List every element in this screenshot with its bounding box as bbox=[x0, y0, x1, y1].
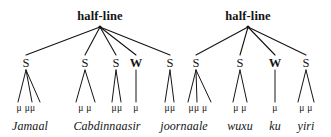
mora-group-1: μ μμ bbox=[17, 104, 36, 114]
word-label-wuxu: wuxu bbox=[227, 120, 253, 132]
metrical-node-s-7: S bbox=[303, 57, 310, 70]
word-label-ku: ku bbox=[269, 120, 281, 132]
metrical-node-w-1: W bbox=[130, 57, 143, 70]
mora-group-3: μμ bbox=[112, 104, 123, 114]
mora-group-9: μ μ bbox=[299, 104, 312, 114]
word-label-yiri: yiri bbox=[297, 120, 314, 132]
word-label-cabdinnaasir: Cabdinnaasir bbox=[73, 120, 140, 132]
metrical-node-s-4: S bbox=[167, 57, 174, 70]
halfline-label-left: half-line bbox=[77, 10, 122, 23]
mora-group-5: μμ bbox=[165, 104, 176, 114]
mora-group-4: μ bbox=[133, 104, 138, 114]
metrical-node-s-6: S bbox=[237, 57, 244, 70]
metrical-node-s-2: S bbox=[82, 57, 89, 70]
word-label-joornaale: joornaale bbox=[160, 120, 208, 132]
mora-group-7: μ μ bbox=[233, 104, 246, 114]
metrical-tree-figure: half-line half-line S S S W S S S W S μ … bbox=[0, 0, 331, 137]
metrical-node-s-1: S bbox=[23, 57, 30, 70]
metrical-node-s-5: S bbox=[193, 57, 200, 70]
mora-group-6: μμ μ bbox=[189, 104, 208, 114]
mora-group-8: μ bbox=[272, 104, 277, 114]
metrical-node-s-3: S bbox=[113, 57, 120, 70]
metrical-node-w-2: W bbox=[269, 57, 282, 70]
halfline-label-right: half-line bbox=[225, 10, 270, 23]
word-label-jamaal: Jamaal bbox=[12, 120, 48, 132]
mora-group-2: μ μ bbox=[78, 104, 91, 114]
